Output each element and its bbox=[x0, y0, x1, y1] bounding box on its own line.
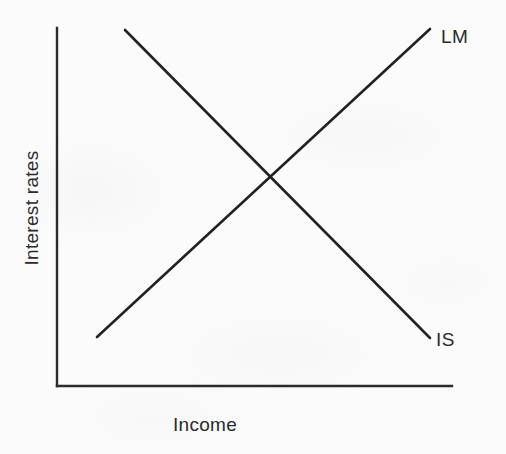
is-curve bbox=[125, 30, 430, 338]
is-curve-label: IS bbox=[436, 329, 455, 351]
lm-curve-label: LM bbox=[441, 26, 468, 48]
is-lm-diagram: LM IS Income Interest rates bbox=[0, 0, 506, 454]
plot-area bbox=[0, 0, 506, 454]
y-axis-label: Interest rates bbox=[21, 113, 43, 303]
x-axis-label: Income bbox=[0, 414, 506, 436]
x-axis-label-text: Income bbox=[173, 414, 237, 435]
lm-curve bbox=[97, 29, 430, 337]
